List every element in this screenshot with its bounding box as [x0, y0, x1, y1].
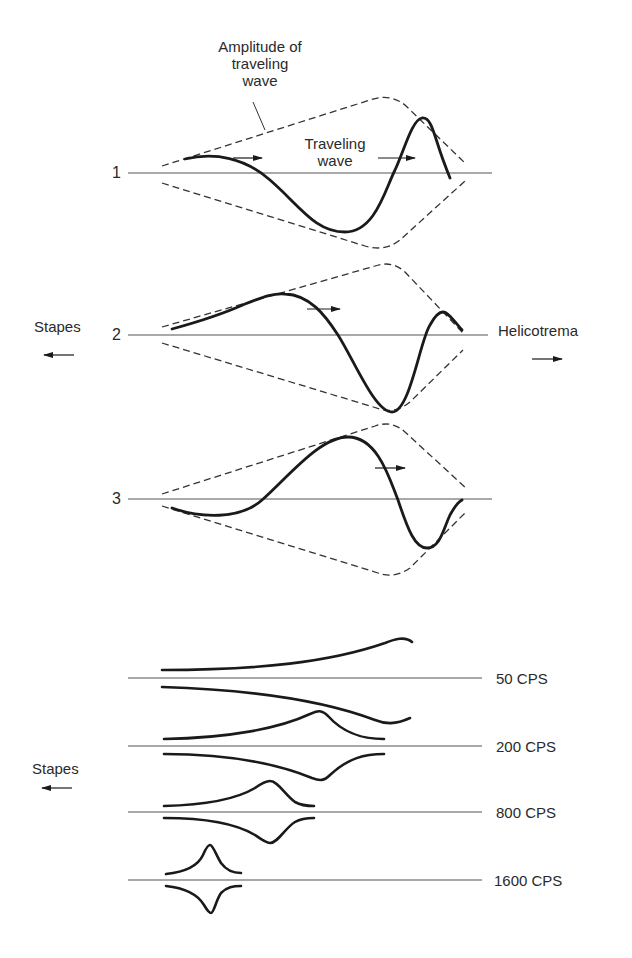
- amplitude-label-line2: traveling: [195, 55, 325, 72]
- profile-1600-upper: [166, 845, 241, 874]
- panel-2-number: 2: [112, 326, 121, 343]
- frequency-label-1600: 1600 CPS: [494, 872, 562, 889]
- profile-800-upper: [164, 781, 314, 806]
- panel-1-envelope-lower: [162, 181, 465, 248]
- frequency-profiles: [128, 639, 482, 913]
- amplitude-pointer-line: [253, 102, 265, 130]
- panel-1-number: 1: [112, 164, 121, 181]
- helicotrema-label: Helicotrema: [498, 322, 578, 339]
- panel-1: [128, 97, 492, 248]
- profile-800-lower: [164, 818, 314, 843]
- panel-3-number: 3: [112, 490, 121, 507]
- profile-200-upper: [164, 711, 384, 739]
- frequency-label-50: 50 CPS: [496, 670, 548, 687]
- amplitude-label-line3: wave: [195, 72, 325, 89]
- panel-3-envelope-upper: [162, 424, 467, 494]
- panel-2-envelope-upper: [162, 264, 463, 333]
- traveling-wave-label: Traveling wave: [295, 135, 375, 169]
- frequency-label-800: 800 CPS: [496, 804, 556, 821]
- panel-3-wave: [172, 437, 462, 548]
- profile-50-lower: [162, 687, 410, 723]
- profile-200-lower: [164, 754, 384, 780]
- panel-3: [128, 424, 492, 575]
- profile-1600-lower: [166, 886, 241, 913]
- stapes-label-lower: Stapes: [32, 760, 79, 777]
- panel-2-envelope-lower: [162, 343, 463, 410]
- traveling-wave-label-line2: wave: [295, 152, 375, 169]
- profile-50-upper: [162, 639, 412, 670]
- stapes-label: Stapes: [34, 318, 81, 335]
- amplitude-label-line1: Amplitude of: [195, 38, 325, 55]
- frequency-label-200: 200 CPS: [496, 738, 556, 755]
- panel-2: [128, 264, 488, 412]
- amplitude-label: Amplitude of traveling wave: [195, 38, 325, 89]
- traveling-wave-label-line1: Traveling: [295, 135, 375, 152]
